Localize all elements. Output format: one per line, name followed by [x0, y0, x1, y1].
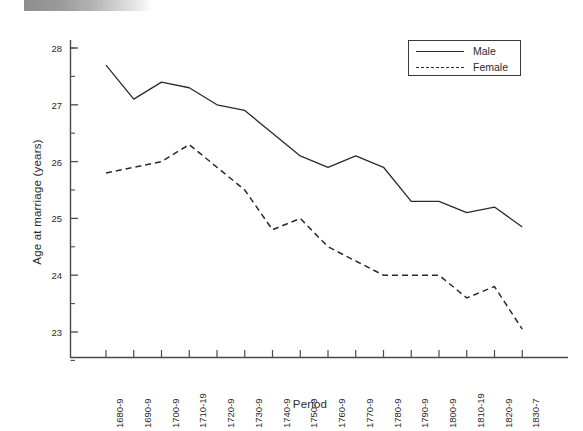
- line-chart-figure: 232425262728 1680-91690-91700-91710-1917…: [0, 0, 583, 431]
- legend-label-male: Male: [473, 45, 496, 57]
- x-tick-label: 1780-9: [392, 364, 403, 428]
- legend-box: Male Female: [408, 40, 521, 76]
- x-tick-label: 1700-9: [170, 364, 181, 428]
- x-tick-label: 1720-9: [225, 364, 236, 428]
- x-tick-label: 1740-9: [281, 364, 292, 428]
- x-tick-label: 1680-9: [114, 364, 125, 428]
- legend-entry-male: Male: [409, 43, 520, 59]
- x-tick-label: 1800-9: [447, 364, 458, 428]
- x-tick-label: 1750-9: [308, 364, 319, 428]
- x-tick-label: 1810-19: [475, 364, 486, 428]
- x-tick-label: 1790-9: [419, 364, 430, 428]
- x-axis-title: Period: [210, 398, 410, 410]
- x-tick-label: 1820-9: [503, 364, 514, 428]
- legend-label-female: Female: [473, 61, 508, 73]
- x-tick-label: 1830-7: [530, 364, 541, 428]
- x-tick-label: 1710-19: [197, 364, 208, 428]
- legend-line-swatch-female: [416, 61, 464, 73]
- legend-entry-female: Female: [409, 59, 520, 75]
- x-tick-label: 1770-9: [364, 364, 375, 428]
- x-tick-label: 1730-9: [253, 364, 264, 428]
- legend-line-swatch-male: [416, 45, 464, 57]
- x-tick-label: 1690-9: [142, 364, 153, 428]
- y-axis-title: Age at marriage (years): [31, 102, 43, 302]
- chart-page: 232425262728 1680-91690-91700-91710-1917…: [0, 0, 583, 431]
- x-tick-label: 1760-9: [336, 364, 347, 428]
